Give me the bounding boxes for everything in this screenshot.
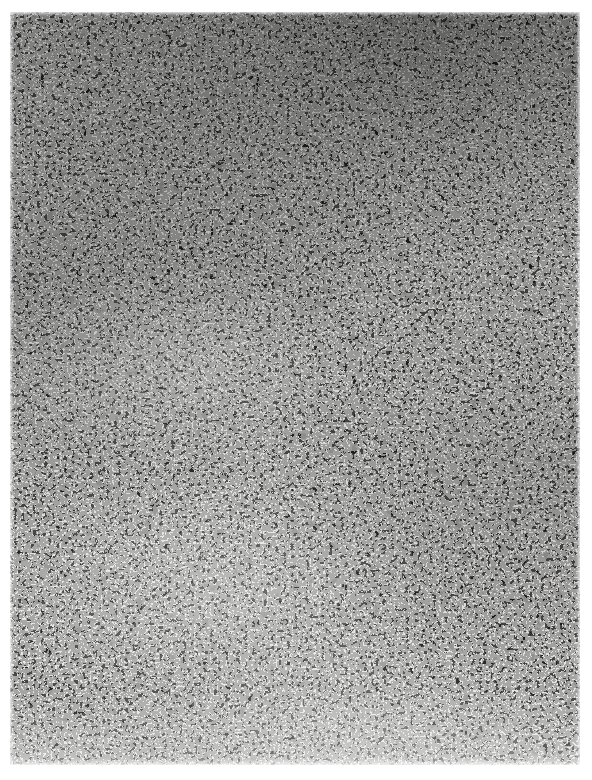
- noise-texture-canvas: [10, 12, 580, 765]
- noise-layer-void-fine: [10, 12, 580, 765]
- micrograph-plate: [10, 12, 580, 765]
- figure-page: [0, 0, 592, 780]
